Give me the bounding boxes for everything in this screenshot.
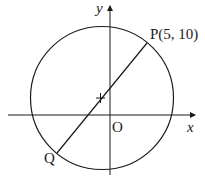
diagram-canvas: y x O P(5, 10) Q — [0, 0, 205, 177]
coordinate-diagram: y x O P(5, 10) Q — [0, 0, 205, 177]
origin-label: O — [112, 119, 123, 135]
point-p-label: P(5, 10) — [150, 26, 198, 43]
point-q-label: Q — [44, 150, 55, 166]
center-cross-icon — [96, 93, 105, 103]
x-axis-label: x — [186, 119, 194, 135]
y-axis-label: y — [94, 0, 103, 16]
